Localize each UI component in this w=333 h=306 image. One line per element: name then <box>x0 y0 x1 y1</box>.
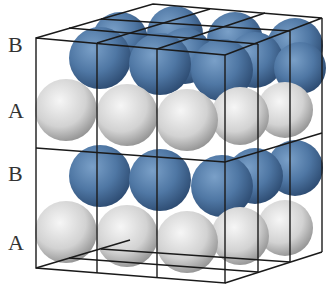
layer-a-lower <box>35 200 313 273</box>
packing-diagram <box>0 0 333 306</box>
